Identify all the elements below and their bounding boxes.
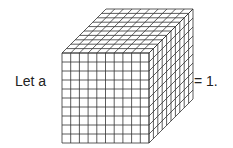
- equals-one-label: = 1.: [194, 73, 218, 89]
